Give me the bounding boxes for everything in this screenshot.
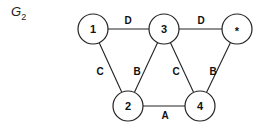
edge-label: C: [172, 66, 179, 77]
edge-label: B: [209, 66, 216, 77]
edge-1-2: C: [96, 43, 121, 93]
node-label: *: [235, 25, 240, 37]
edge-label: D: [197, 15, 204, 26]
edge-label: A: [161, 110, 168, 121]
node-2: 2: [113, 91, 143, 121]
edge-3-2: B: [133, 43, 157, 93]
node-label: 4: [197, 100, 204, 112]
edge-label: C: [96, 66, 103, 77]
edge-1-3: D: [108, 15, 149, 30]
node-4: 4: [185, 91, 215, 121]
edge-2-4: A: [143, 106, 185, 121]
node-label: 3: [161, 23, 167, 35]
node-3: 3: [149, 14, 179, 44]
edge-label: D: [124, 15, 131, 26]
node-1: 1: [78, 14, 108, 44]
edge-star-4: B: [206, 43, 230, 93]
edge-3-4: C: [170, 43, 193, 93]
graph-diagram: DDCBCBA 13*24: [0, 0, 268, 127]
edge-3-star: D: [179, 15, 222, 30]
node-label: 2: [125, 100, 131, 112]
edge-label: B: [133, 66, 140, 77]
node-label: 1: [90, 23, 96, 35]
node-star: *: [222, 14, 252, 44]
nodes-layer: 13*24: [78, 14, 252, 121]
